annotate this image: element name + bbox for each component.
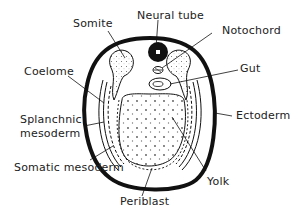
yolk — [119, 94, 186, 166]
label-somite: Somite — [73, 18, 113, 30]
label-gut: Gut — [240, 63, 260, 75]
embryo-cross-section-diagram: Somite Neural tube Notochord Coelome Gut… — [0, 0, 300, 214]
label-yolk: Yolk — [207, 176, 229, 188]
label-notochord: Notochord — [222, 25, 281, 37]
label-periblast: Periblast — [120, 196, 169, 208]
label-splanchnic-mesoderm: mesoderm — [20, 128, 80, 140]
somite-left — [110, 50, 134, 100]
label-ectoderm: Ectoderm — [236, 110, 290, 122]
label-splanchnic: Splanchnic — [20, 114, 82, 126]
label-coelome: Coelome — [24, 66, 74, 78]
somite-right — [167, 50, 191, 100]
label-neural-tube: Neural tube — [137, 10, 204, 22]
label-somatic-mesoderm: Somatic mesoderm — [14, 162, 124, 174]
